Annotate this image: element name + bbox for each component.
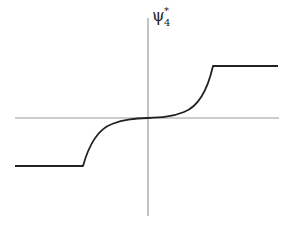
y-axis-label: ψ * 4 <box>152 8 165 24</box>
psi-symbol: ψ <box>152 6 165 25</box>
function-diagram <box>0 0 290 226</box>
label-subscript: 4 <box>164 18 170 28</box>
psi-curve <box>15 66 278 166</box>
label-superscript: * <box>164 6 169 16</box>
